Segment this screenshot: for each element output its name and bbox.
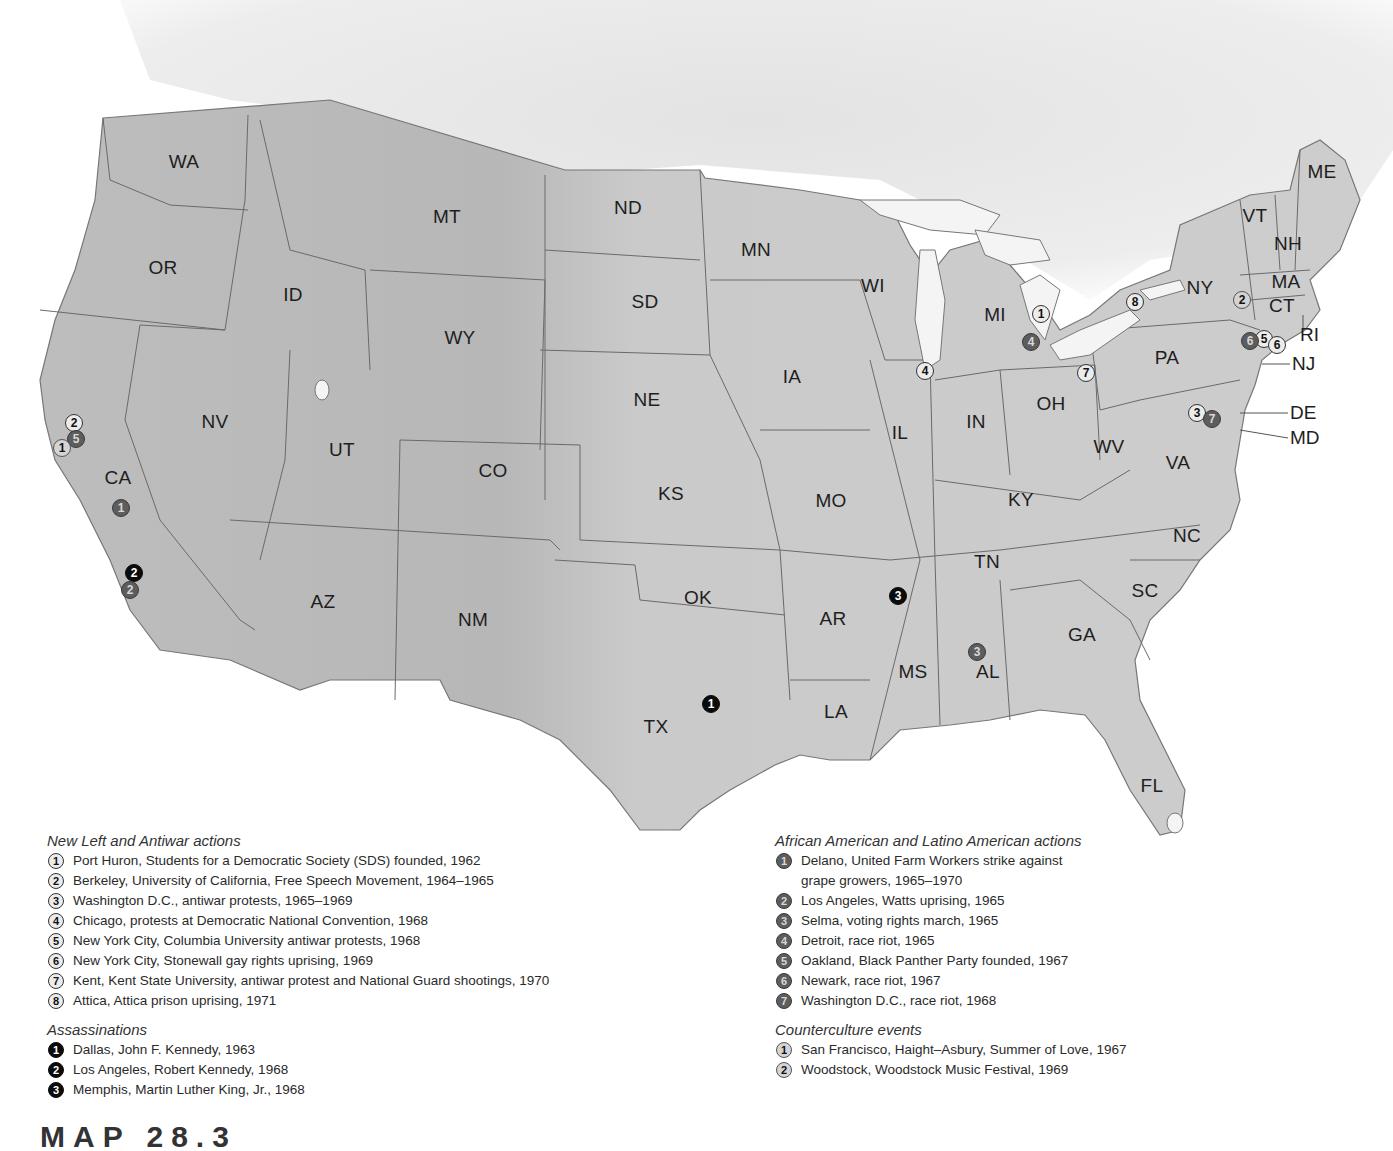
legend-item-text: San Francisco, Haight–Asbury, Summer of … (801, 1040, 1126, 1060)
state-label-or: OR (148, 257, 177, 279)
legend-marker-icon: 6 (48, 953, 64, 969)
state-label-ne: NE (634, 389, 661, 411)
state-label-tx: TX (644, 716, 669, 738)
marker-new-left-4-icon: 4 (916, 362, 934, 380)
legend-marker-icon: 2 (776, 1062, 792, 1078)
legend-marker-icon: 6 (776, 973, 792, 989)
state-label-me: ME (1307, 161, 1336, 183)
marker-civil-2-icon: 2 (121, 581, 139, 599)
legend-item-text: New York City, Stonewall gay rights upri… (73, 951, 373, 971)
state-label-wy: WY (444, 327, 475, 349)
state-label-ct: CT (1269, 295, 1295, 317)
state-label-nm: NM (458, 609, 488, 631)
legend-civil-rights: African American and Latino American act… (775, 832, 1082, 1011)
legend-item: 3Memphis, Martin Luther King, Jr., 1968 (47, 1080, 305, 1100)
legend-marker-icon: 2 (48, 1062, 64, 1078)
state-label-vt: VT (1243, 205, 1268, 227)
state-label-ia: IA (783, 366, 802, 388)
state-label-md: MD (1290, 427, 1320, 449)
legend-marker-icon: 8 (48, 993, 64, 1009)
state-label-ms: MS (898, 661, 927, 683)
state-label-tn: TN (974, 551, 1000, 573)
state-label-ks: KS (658, 483, 684, 505)
state-label-mn: MN (741, 239, 771, 261)
marker-assassination-1-icon: 1 (702, 695, 720, 713)
legend-item-text: Woodstock, Woodstock Music Festival, 196… (801, 1060, 1068, 1080)
legend-item-text: New York City, Columbia University antiw… (73, 931, 420, 951)
state-label-in: IN (966, 411, 986, 433)
state-label-wi: WI (861, 275, 885, 297)
legend-item: 2Los Angeles, Robert Kennedy, 1968 (47, 1060, 305, 1080)
state-label-mt: MT (433, 206, 461, 228)
map-number-heading: MAP 28.3 (40, 1120, 237, 1151)
state-label-ut: UT (329, 439, 355, 461)
legend-marker-icon: 1 (776, 1042, 792, 1058)
marker-assassination-2-icon: 2 (125, 564, 143, 582)
state-label-ky: KY (1008, 489, 1034, 511)
legend-marker-icon: 1 (48, 853, 64, 869)
legend-item-text: Detroit, race riot, 1965 (801, 931, 935, 951)
legend-marker-icon: 4 (48, 913, 64, 929)
legend-marker-icon: 5 (48, 933, 64, 949)
legend-marker-icon: 2 (48, 873, 64, 889)
state-label-mi: MI (984, 304, 1006, 326)
state-label-va: VA (1166, 452, 1191, 474)
state-label-ga: GA (1068, 624, 1096, 646)
legend-item: 1Delano, United Farm Workers strike agai… (775, 851, 1082, 891)
state-label-nj: NJ (1292, 353, 1315, 375)
legend-item: 5New York City, Columbia University anti… (47, 931, 549, 951)
state-label-de: DE (1290, 402, 1316, 424)
legend-marker-icon: 7 (48, 973, 64, 989)
marker-civil-4-icon: 4 (1022, 333, 1040, 351)
state-label-co: CO (478, 460, 507, 482)
legend-title-assassinations: Assassinations (47, 1021, 305, 1038)
state-label-nh: NH (1274, 233, 1302, 255)
legend-item-text: Chicago, protests at Democratic National… (73, 911, 428, 931)
state-label-nv: NV (202, 411, 229, 433)
marker-civil-6-icon: 6 (1241, 332, 1259, 350)
marker-new-left-7-icon: 7 (1077, 364, 1095, 382)
legend-item: 6Newark, race riot, 1967 (775, 971, 1082, 991)
legend-item-text: Delano, United Farm Workers strike again… (801, 851, 1063, 891)
legend-item-text: Berkeley, University of California, Free… (73, 871, 494, 891)
legend-marker-icon: 5 (776, 953, 792, 969)
state-label-ca: CA (105, 467, 132, 489)
state-label-pa: PA (1155, 347, 1180, 369)
legend-item-text: Kent, Kent State University, antiwar pro… (73, 971, 549, 991)
legend-item-text: Attica, Attica prison uprising, 1971 (73, 991, 276, 1011)
marker-counter-2-icon: 2 (1233, 291, 1251, 309)
legend-item-text: Newark, race riot, 1967 (801, 971, 941, 991)
legend-item: 2Woodstock, Woodstock Music Festival, 19… (775, 1060, 1126, 1080)
legend-item-text: Washington D.C., antiwar protests, 1965–… (73, 891, 352, 911)
legend-title-new-left: New Left and Antiwar actions (47, 832, 549, 849)
state-label-mo: MO (815, 490, 846, 512)
state-label-ma: MA (1271, 271, 1300, 293)
marker-new-left-6-icon: 6 (1268, 336, 1286, 354)
legend-item: 3Washington D.C., antiwar protests, 1965… (47, 891, 549, 911)
legend-marker-icon: 3 (48, 1082, 64, 1098)
legend-item: 7Kent, Kent State University, antiwar pr… (47, 971, 549, 991)
legend-title-civil-rights: African American and Latino American act… (775, 832, 1082, 849)
state-label-nc: NC (1173, 525, 1201, 547)
state-label-nd: ND (614, 197, 642, 219)
legend-marker-icon: 1 (776, 853, 792, 869)
marker-civil-3-icon: 3 (968, 643, 986, 661)
legend-item: 3Selma, voting rights march, 1965 (775, 911, 1082, 931)
legend-item: 1Port Huron, Students for a Democratic S… (47, 851, 549, 871)
state-label-fl: FL (1141, 775, 1164, 797)
state-label-ar: AR (820, 608, 847, 630)
state-label-ri: RI (1300, 324, 1319, 346)
legend-marker-icon: 7 (776, 993, 792, 1009)
marker-civil-1-icon: 1 (112, 499, 130, 517)
state-label-oh: OH (1036, 393, 1065, 415)
legend-item: 1San Francisco, Haight–Asbury, Summer of… (775, 1040, 1126, 1060)
legend-item-text: Washington D.C., race riot, 1968 (801, 991, 996, 1011)
state-label-ny: NY (1187, 277, 1214, 299)
state-label-wv: WV (1093, 436, 1124, 458)
legend-item: 2Berkeley, University of California, Fre… (47, 871, 549, 891)
legend-item: 6New York City, Stonewall gay rights upr… (47, 951, 549, 971)
legend-marker-icon: 3 (776, 913, 792, 929)
marker-new-left-8-icon: 8 (1126, 293, 1144, 311)
legend-item-text: Los Angeles, Robert Kennedy, 1968 (73, 1060, 288, 1080)
legend-item-text: Port Huron, Students for a Democratic So… (73, 851, 480, 871)
